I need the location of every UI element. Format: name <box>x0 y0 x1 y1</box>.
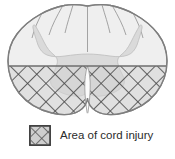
anterior-median-fissure <box>85 66 91 113</box>
legend: Area of cord injury <box>29 125 153 146</box>
spinal-cord-injury-figure: Area of cord injury <box>0 0 175 159</box>
legend-swatch-crosshatch <box>29 125 51 146</box>
spinal-cord-diagram <box>0 0 175 122</box>
legend-label: Area of cord injury <box>60 129 153 142</box>
